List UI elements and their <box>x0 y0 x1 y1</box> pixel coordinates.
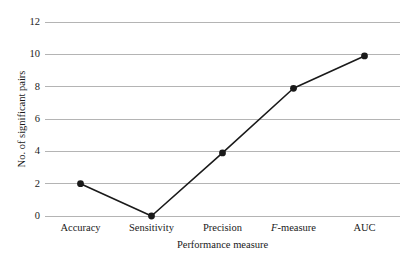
y-tick-label: 10 <box>14 48 40 59</box>
x-tick-label: Precision <box>203 220 242 236</box>
y-axis-tick-labels: 024681012 <box>14 0 40 261</box>
y-tick-label: 4 <box>14 145 40 156</box>
x-axis-tick-labels: AccuracySensitivityPrecisionF-measureAUC <box>45 220 400 236</box>
x-axis-label: Performance measure <box>45 238 400 252</box>
x-tick-label: Accuracy <box>60 220 100 236</box>
data-point-marker <box>219 150 226 157</box>
y-tick-label: 6 <box>14 113 40 124</box>
x-tick-label: AUC <box>353 220 375 236</box>
line-series <box>45 22 400 216</box>
y-tick-label: 2 <box>14 178 40 189</box>
data-point-marker <box>77 180 84 187</box>
series-line-path <box>81 56 365 216</box>
plot-area <box>45 22 400 216</box>
data-point-marker <box>148 213 155 220</box>
x-tick-label: Sensitivity <box>129 220 174 236</box>
y-tick-label: 0 <box>14 210 40 221</box>
chart-figure: No. of significant pairs 024681012 Accur… <box>0 0 408 261</box>
x-tick-label: F-measure <box>271 220 316 236</box>
data-point-marker <box>290 85 297 92</box>
x-tick-label-italic-part: F <box>271 222 277 233</box>
data-point-marker <box>361 53 368 60</box>
y-tick-label: 12 <box>14 16 40 27</box>
y-tick-label: 8 <box>14 81 40 92</box>
series-markers <box>77 53 368 220</box>
